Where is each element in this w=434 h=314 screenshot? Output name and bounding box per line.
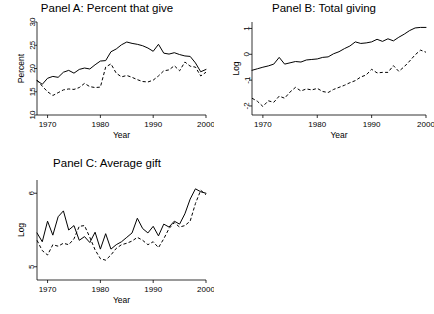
y-tick-label: 30: [28, 17, 37, 26]
y-tick-label: 0: [243, 52, 252, 57]
panel-b: Panel B: Total giving -2-101Log197019801…: [214, 0, 434, 155]
x-axis-title: Year: [113, 295, 130, 305]
y-axis-title: Log: [16, 223, 26, 237]
y-axis-title: Percent: [16, 53, 26, 83]
figure-container: Panel A: Percent that give 1015202530Per…: [0, 0, 434, 314]
y-tick-label: 20: [28, 64, 37, 73]
series-solid: [37, 42, 206, 84]
panel-c: Panel C: Average gift 56Log1970198019902…: [0, 155, 214, 314]
panel-b-plot: -2-101Log1970198019902000Year: [214, 0, 434, 155]
y-tick-label: 1: [243, 26, 252, 31]
x-tick-label: 1990: [363, 120, 381, 129]
y-tick-label: 15: [28, 87, 37, 96]
x-axis-title: Year: [330, 130, 347, 140]
x-axis-title: Year: [113, 130, 130, 140]
x-tick-label: 1970: [39, 285, 57, 294]
y-tick-label: -1: [243, 76, 252, 84]
x-tick-label: 1990: [144, 285, 162, 294]
panel-a: Panel A: Percent that give 1015202530Per…: [0, 0, 214, 155]
x-tick-label: 1980: [308, 120, 326, 129]
x-tick-label: 1980: [91, 285, 109, 294]
y-tick-label: 25: [28, 40, 37, 49]
y-tick-label: 10: [28, 110, 37, 119]
y-axis-title: Log: [231, 61, 241, 75]
x-tick-label: 1990: [144, 120, 162, 129]
panel-c-plot: 56Log1970198019902000Year: [0, 155, 214, 314]
series-dashed: [37, 190, 206, 260]
y-tick-label: 5: [28, 264, 37, 269]
series-solid: [252, 27, 426, 70]
x-tick-label: 1970: [254, 120, 272, 129]
series-solid: [37, 189, 206, 249]
x-tick-label: 2000: [197, 285, 214, 294]
series-dashed: [37, 62, 206, 95]
x-tick-label: 2000: [417, 120, 434, 129]
y-tick-label: 6: [28, 190, 37, 195]
y-tick-label: -2: [243, 102, 252, 110]
x-tick-label: 1970: [39, 120, 57, 129]
panel-a-plot: 1015202530Percent1970198019902000Year: [0, 0, 214, 155]
x-tick-label: 1980: [91, 120, 109, 129]
x-tick-label: 2000: [197, 120, 214, 129]
